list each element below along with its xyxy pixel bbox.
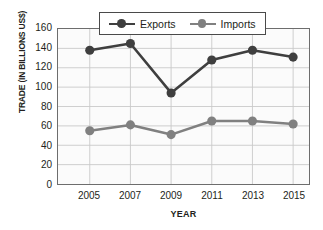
x-tick-label: 2007 <box>108 190 152 201</box>
x-axis-title: YEAR <box>57 209 310 219</box>
data-point <box>85 46 94 55</box>
y-tick-label: 100 <box>26 82 52 92</box>
y-tick-label: 80 <box>26 102 52 112</box>
legend-label: Exports <box>140 18 176 30</box>
data-point <box>167 88 176 97</box>
x-tick-label: 2013 <box>231 190 275 201</box>
data-point <box>85 126 94 135</box>
y-tick-label: 40 <box>26 141 52 151</box>
legend-label: Imports <box>221 18 256 30</box>
legend: Exports Imports <box>99 12 266 35</box>
data-point <box>207 116 216 125</box>
data-point <box>289 119 298 128</box>
legend-marker-imports-icon <box>190 19 216 29</box>
data-point <box>167 130 176 139</box>
plot-area <box>57 28 310 185</box>
y-tick-label: 160 <box>26 23 52 33</box>
plot-svg <box>58 29 309 184</box>
series-exports <box>85 39 298 97</box>
data-point <box>126 39 135 48</box>
y-tick-label: 140 <box>26 43 52 53</box>
legend-item-imports[interactable]: Imports <box>190 18 256 30</box>
series-imports <box>85 116 298 139</box>
data-point <box>248 116 257 125</box>
data-point <box>248 46 257 55</box>
x-tick-label: 2009 <box>149 190 193 201</box>
y-tick-label: 20 <box>26 160 52 170</box>
line-chart: TRADE (IN BILLIONS US$) 160 140 120 100 … <box>0 0 323 230</box>
legend-item-exports[interactable]: Exports <box>109 18 176 30</box>
horizontal-gridlines <box>58 48 309 164</box>
y-tick-label: 120 <box>26 62 52 72</box>
data-point <box>207 55 216 64</box>
y-tick-label: 0 <box>26 180 52 190</box>
y-tick-label: 60 <box>26 121 52 131</box>
legend-marker-exports-icon <box>109 19 135 29</box>
data-point <box>289 53 298 62</box>
x-tick-label: 2011 <box>190 190 234 201</box>
x-tick-label: 2015 <box>272 190 316 201</box>
y-axis-tick-labels: 160 140 120 100 80 60 40 20 0 <box>24 0 52 230</box>
x-tick-label: 2005 <box>67 190 111 201</box>
data-point <box>126 120 135 129</box>
